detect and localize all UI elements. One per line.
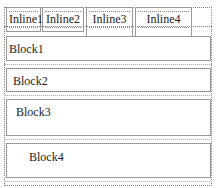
margin-guide-3 [4, 139, 212, 140]
block-label-3: Block3 [16, 105, 51, 119]
block-box-3: Block3 [6, 99, 211, 136]
margin-guide-1 [4, 64, 212, 65]
inline-content-4: Inline4 [138, 11, 189, 28]
block-label-2: Block2 [13, 74, 48, 88]
inline-content-3: Inline3 [89, 11, 130, 28]
inline-box-2: Inline2 [42, 7, 84, 32]
block-box-4: Block4 [6, 143, 211, 178]
inline-content-2: Inline2 [45, 11, 81, 28]
block-box-2: Block2 [6, 68, 211, 92]
inline-content-1: Inline1 [9, 11, 38, 28]
margin-guide-4 [4, 181, 212, 182]
margin-guide-2 [4, 95, 212, 96]
inline-label-3: Inline3 [93, 12, 127, 26]
inline-label-4: Inline4 [147, 12, 181, 26]
block-label-4: Block4 [29, 150, 64, 164]
block-box-1: Block1 [6, 36, 211, 61]
inline-label-2: Inline2 [46, 12, 80, 26]
block-label-1: Block1 [9, 42, 44, 56]
inline-box-1: Inline1 [6, 7, 41, 32]
inline-label-1: Inline1 [9, 12, 43, 26]
